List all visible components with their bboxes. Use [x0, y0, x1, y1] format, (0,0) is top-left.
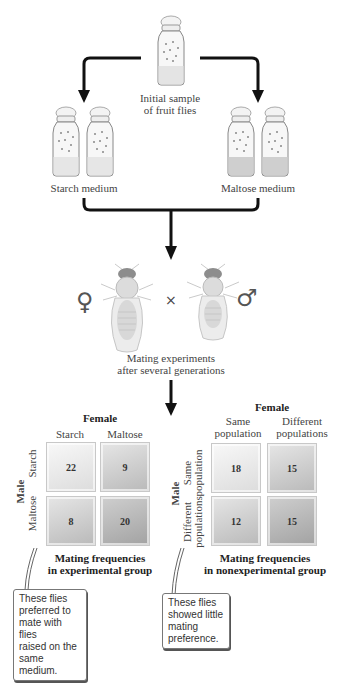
jar-initial-icon [155, 14, 187, 86]
starch-medium-label: Starch medium [34, 182, 134, 194]
right-col-different-line2: populations [266, 427, 338, 439]
right-callout-line3: mating [168, 621, 224, 633]
right-table-caption: Mating frequencies in nonexperimental gr… [190, 552, 340, 576]
left-caption-line1: Mating frequencies [30, 552, 170, 564]
cell-maltose-starch: 8 [46, 496, 96, 546]
right-callout-line2: showed little [168, 609, 224, 621]
maltose-medium-label: Maltose medium [208, 182, 308, 194]
right-row-different: Different populations [182, 491, 204, 553]
left-col-starch: Starch [45, 428, 95, 440]
jar-maltose-2-icon [259, 105, 291, 177]
left-caption-line2: in experimental group [30, 564, 170, 576]
right-caption-line1: Mating frequencies [190, 552, 340, 564]
right-col-different: Different populations [266, 415, 338, 439]
female-symbol-icon: ♀ [76, 288, 94, 316]
female-fly-icon [95, 262, 160, 354]
cell-starch-starch: 22 [46, 442, 96, 492]
left-callout-line5: same medium. [19, 653, 81, 677]
cell-different-different: 15 [267, 496, 317, 546]
mating-caption-line2: after several generations [96, 364, 246, 376]
left-male-header: Male [15, 472, 26, 512]
mating-caption: Mating experiments after several generat… [96, 352, 246, 376]
initial-sample-label: Initial sample of fruit flies [120, 92, 220, 116]
male-fly-icon [183, 262, 243, 342]
male-symbol-icon: ♂ [236, 284, 258, 312]
left-row-maltose: Maltose [27, 494, 38, 534]
left-callout-line4: raised on the [19, 641, 81, 653]
left-callout-line2: preferred to [19, 605, 81, 617]
initial-label-line1: Initial sample [120, 92, 220, 104]
left-callout-line3: mate with flies [19, 617, 81, 641]
initial-label-line2: of fruit flies [120, 104, 220, 116]
right-female-header: Female [242, 401, 302, 413]
jar-starch-1-icon [50, 105, 82, 177]
cell-different-same: 12 [211, 496, 261, 546]
jar-starch-2-icon [84, 105, 116, 177]
left-female-header: Female [70, 412, 130, 424]
right-row-different-line2: populations [193, 491, 204, 553]
right-callout-line4: preference. [168, 633, 224, 645]
cross-symbol-icon: × [165, 292, 177, 308]
right-col-same-line2: population [210, 427, 266, 439]
left-col-maltose: Maltose [100, 428, 150, 440]
left-row-starch: Starch [27, 444, 38, 484]
jar-maltose-1-icon [225, 105, 257, 177]
right-male-header: Male [170, 474, 181, 514]
right-callout: These flies showed little mating prefere… [162, 593, 230, 649]
right-callout-line1: These flies [168, 597, 224, 609]
left-table-caption: Mating frequencies in experimental group [30, 552, 170, 576]
left-callout: These flies preferred to mate with flies… [13, 589, 87, 681]
cell-same-same: 18 [211, 443, 261, 493]
right-col-different-line1: Different [266, 415, 338, 427]
right-col-same: Same population [210, 415, 266, 439]
cell-same-different: 15 [267, 443, 317, 493]
right-col-same-line1: Same [210, 415, 266, 427]
cell-maltose-maltose: 20 [100, 496, 150, 546]
left-callout-line1: These flies [19, 593, 81, 605]
cell-starch-maltose: 9 [100, 442, 150, 492]
right-caption-line2: in nonexperimental group [190, 564, 340, 576]
mating-caption-line1: Mating experiments [96, 352, 246, 364]
